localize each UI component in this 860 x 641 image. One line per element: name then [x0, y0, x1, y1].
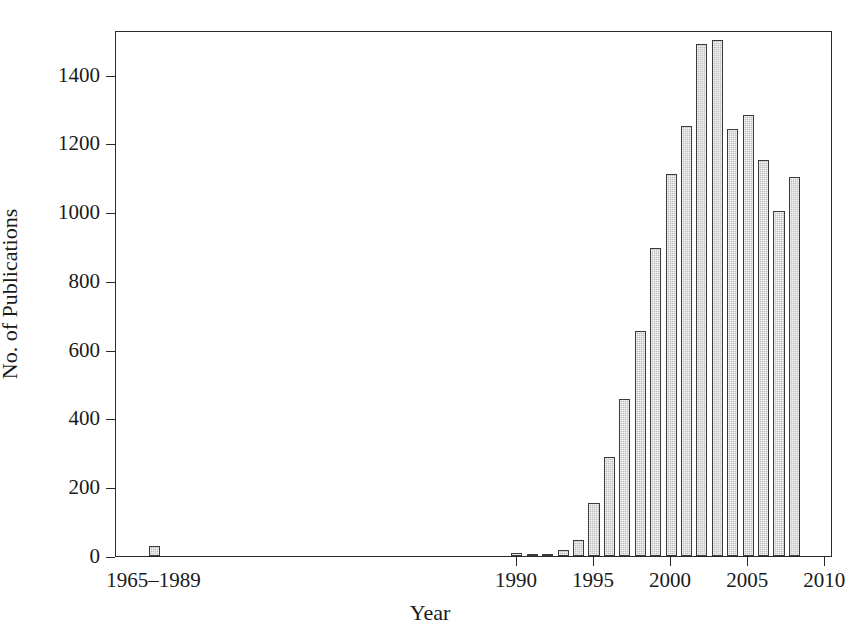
plot-area [115, 31, 832, 557]
y-axis-tick-label: 1200 [10, 133, 100, 154]
bar [712, 40, 723, 556]
bar [511, 553, 522, 556]
bars-layer [116, 32, 831, 556]
bar [743, 115, 754, 556]
bar [542, 554, 553, 557]
bar [666, 174, 677, 556]
y-axis-tick-label: 0 [10, 546, 100, 567]
y-axis-tick-label: 200 [10, 477, 100, 498]
x-axis-tick-label: 1995 [572, 569, 614, 591]
bar [635, 331, 646, 556]
y-axis-tick [106, 213, 115, 214]
y-axis-tick [106, 144, 115, 145]
bar [758, 160, 769, 556]
x-axis-tick [824, 557, 825, 566]
y-axis-tick [106, 557, 115, 558]
x-axis-tick-label: 2000 [649, 569, 691, 591]
bar [789, 177, 800, 556]
y-axis-tick [106, 282, 115, 283]
bar [604, 457, 615, 556]
bar [696, 44, 707, 556]
y-axis-tick [106, 76, 115, 77]
bar [558, 550, 569, 556]
bar [619, 399, 630, 556]
bar [588, 503, 599, 556]
bar [773, 211, 784, 557]
y-axis-title: No. of Publications [0, 209, 23, 380]
x-axis-tick [747, 557, 748, 566]
x-axis-tick [516, 557, 517, 566]
x-axis-tick [593, 557, 594, 566]
y-axis-tick-label: 600 [10, 340, 100, 361]
y-axis-tick [106, 351, 115, 352]
bar [681, 126, 692, 556]
bar [149, 546, 160, 556]
x-axis-tick-label: 2005 [726, 569, 768, 591]
bar [727, 129, 738, 556]
x-axis-tick-label: 2010 [803, 569, 845, 591]
x-axis-title: Year [0, 600, 860, 626]
bar [527, 554, 538, 557]
x-axis-tick [670, 557, 671, 566]
bar [650, 248, 661, 556]
y-axis-tick [106, 488, 115, 489]
x-axis-tick-label: 1965–1989 [106, 569, 201, 591]
y-axis-tick [106, 419, 115, 420]
y-axis-tick-label: 800 [10, 271, 100, 292]
y-axis-tick-label: 400 [10, 408, 100, 429]
x-axis-tick-label: 1990 [495, 569, 537, 591]
publications-per-year-bar-chart: 0200400600800100012001400 19901995200020… [0, 0, 860, 641]
y-axis-tick-label: 1400 [10, 65, 100, 86]
y-axis-tick-label: 1000 [10, 202, 100, 223]
bar [573, 540, 584, 557]
